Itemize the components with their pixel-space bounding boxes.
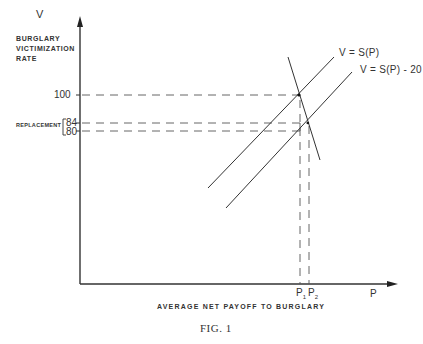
x-axis-arrow-icon (387, 281, 398, 287)
y-axis-label-line: BURGLARY (16, 34, 60, 44)
x-axis-symbol: P (370, 288, 377, 299)
y-axis-symbol: V (36, 8, 43, 20)
x-axis-label: AVERAGE NET PAYOFF TO BURGLARY (157, 303, 325, 310)
y-axis-arrow-icon (77, 16, 83, 27)
y-tick-label-80: 80 (66, 126, 77, 137)
x-tick-label-p2: P2 (308, 287, 318, 300)
y-axis-label-line: RATE (16, 54, 37, 64)
y-tick-label-100: 100 (54, 89, 71, 100)
curve-demand (288, 57, 320, 160)
curve-label-s: V = S(P) (339, 47, 379, 58)
intersection-point (307, 122, 309, 124)
curve-s (208, 57, 334, 188)
figure-caption: FIG. 1 (200, 322, 232, 334)
intersection-point (297, 93, 300, 96)
y-axis-label-line: VICTIMIZATION (16, 44, 75, 54)
curve-s-minus-20 (226, 72, 352, 208)
replacement-label: REPLACEMENT (16, 122, 61, 128)
x-tick-label-p1: P1 (296, 287, 306, 300)
curve-label-s-minus-20: V = S(P) - 20 (360, 64, 422, 75)
